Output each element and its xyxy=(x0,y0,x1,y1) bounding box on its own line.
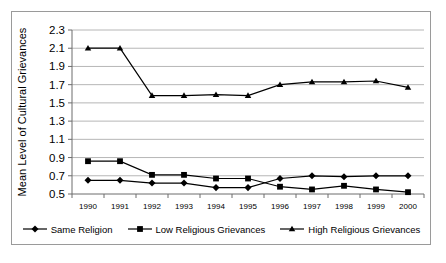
data-point-diamond xyxy=(148,180,155,187)
data-point-diamond xyxy=(308,172,315,179)
data-point-square xyxy=(149,172,155,178)
x-tick-label: 1992 xyxy=(143,202,161,211)
data-point-square xyxy=(405,189,411,195)
y-axis-ticks: 0.50.70.91.11.31.51.71.92.12.3 xyxy=(49,24,72,200)
x-tick-label: 1998 xyxy=(335,202,353,211)
chart-legend: Same ReligionLow Religious GrievancesHig… xyxy=(12,220,430,238)
x-tick-label: 1997 xyxy=(303,202,321,211)
y-tick-label: 1.1 xyxy=(49,133,65,145)
data-point-square xyxy=(373,187,379,193)
data-point-square xyxy=(213,176,219,182)
gridlines xyxy=(72,30,424,176)
data-point-square xyxy=(277,184,283,190)
y-axis-label: Mean Level of Cultural Grievances xyxy=(16,27,28,196)
line-chart: 0.50.70.91.11.31.51.71.92.12.3 199019911… xyxy=(12,12,430,244)
y-axis-title: Mean Level of Cultural Grievances xyxy=(16,27,28,196)
x-tick-label: 2000 xyxy=(399,202,417,211)
series-line-triangle xyxy=(88,48,408,95)
data-point-square xyxy=(85,158,91,164)
data-point-square xyxy=(245,176,251,182)
data-point-diamond xyxy=(116,177,123,184)
y-tick-label: 2.1 xyxy=(49,42,65,54)
plot-area: 0.50.70.91.11.31.51.71.92.12.3 199019911… xyxy=(12,12,430,244)
data-point-square xyxy=(341,183,347,189)
x-tick-label: 1995 xyxy=(239,202,257,211)
x-tick-label: 1999 xyxy=(367,202,385,211)
x-axis-ticks: 1990199119921993199419951996199719981999… xyxy=(72,194,424,211)
x-tick-label: 1996 xyxy=(271,202,289,211)
data-point-diamond xyxy=(212,184,219,191)
y-tick-label: 2.3 xyxy=(49,24,65,36)
legend-item-triangle[interactable]: High Religious Grievances xyxy=(279,224,420,235)
x-tick-label: 1993 xyxy=(175,202,193,211)
y-tick-label: 0.7 xyxy=(49,170,65,182)
y-tick-label: 1.9 xyxy=(49,60,65,72)
legend-label: Same Religion xyxy=(51,224,113,235)
data-point-square xyxy=(309,187,315,193)
data-point-diamond xyxy=(340,173,347,180)
data-point-diamond xyxy=(372,172,379,179)
data-point-diamond xyxy=(404,172,411,179)
data-point-diamond xyxy=(180,180,187,187)
y-tick-label: 1.3 xyxy=(49,115,65,127)
x-tick-label: 1994 xyxy=(207,202,225,211)
y-tick-label: 1.5 xyxy=(49,97,65,109)
legend-marker-triangle-icon xyxy=(279,224,305,234)
data-series xyxy=(84,45,411,195)
data-point-square xyxy=(181,172,187,178)
y-tick-label: 0.9 xyxy=(49,152,65,164)
data-point-square xyxy=(117,158,123,164)
legend-marker-square-icon xyxy=(127,224,153,234)
legend-label: High Religious Grievances xyxy=(308,224,420,235)
y-tick-label: 1.7 xyxy=(49,79,65,91)
legend-item-square[interactable]: Low Religious Grievances xyxy=(127,224,266,235)
chart-frame: 0.50.70.91.11.31.51.71.92.12.3 199019911… xyxy=(11,11,431,245)
legend-label: Low Religious Grievances xyxy=(156,224,266,235)
legend-item-diamond[interactable]: Same Religion xyxy=(22,224,113,235)
legend-marker-diamond-icon xyxy=(22,224,48,234)
x-tick-label: 1991 xyxy=(111,202,129,211)
data-point-diamond xyxy=(244,184,251,191)
data-point-diamond xyxy=(84,177,91,184)
x-tick-label: 1990 xyxy=(79,202,97,211)
y-tick-label: 0.5 xyxy=(49,188,65,200)
